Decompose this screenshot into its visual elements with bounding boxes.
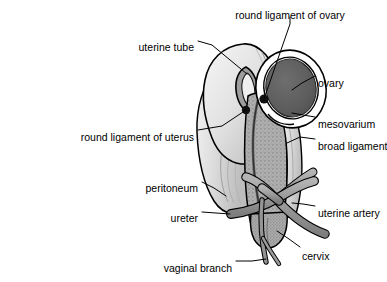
label-broad-ligament: broad ligament <box>318 141 387 152</box>
anatomical-diagram-page: round ligament of ovaryuterine tubeovary… <box>0 0 387 282</box>
label-ureter: ureter <box>171 213 198 224</box>
label-peritoneum: peritoneum <box>145 183 198 194</box>
label-round-ligament-of-ovary: round ligament of ovary <box>235 10 345 21</box>
cervix <box>250 212 287 248</box>
label-round-ligament-of-uterus: round ligament of uterus <box>81 132 194 143</box>
label-mesovarium: mesovarium <box>318 119 375 130</box>
label-cervix: cervix <box>302 251 329 262</box>
leader-vaginal-branch <box>236 259 266 261</box>
label-vaginal-branch: vaginal branch <box>164 263 232 274</box>
label-uterine-artery: uterine artery <box>318 208 380 219</box>
label-ovary: ovary <box>318 78 344 89</box>
label-uterine-tube: uterine tube <box>139 42 194 53</box>
